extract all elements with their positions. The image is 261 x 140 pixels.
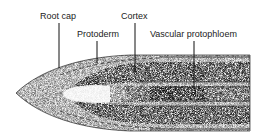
label-cortex: Cortex	[121, 11, 148, 21]
root-tip-illustration	[0, 0, 261, 140]
label-root-cap: Root cap	[40, 11, 76, 21]
label-vascular-protophloem: Vascular protophloem	[150, 29, 237, 39]
root-tip-diagram: Root cap Cortex Protoderm Vascular proto…	[0, 0, 261, 140]
label-protoderm: Protoderm	[77, 29, 119, 39]
